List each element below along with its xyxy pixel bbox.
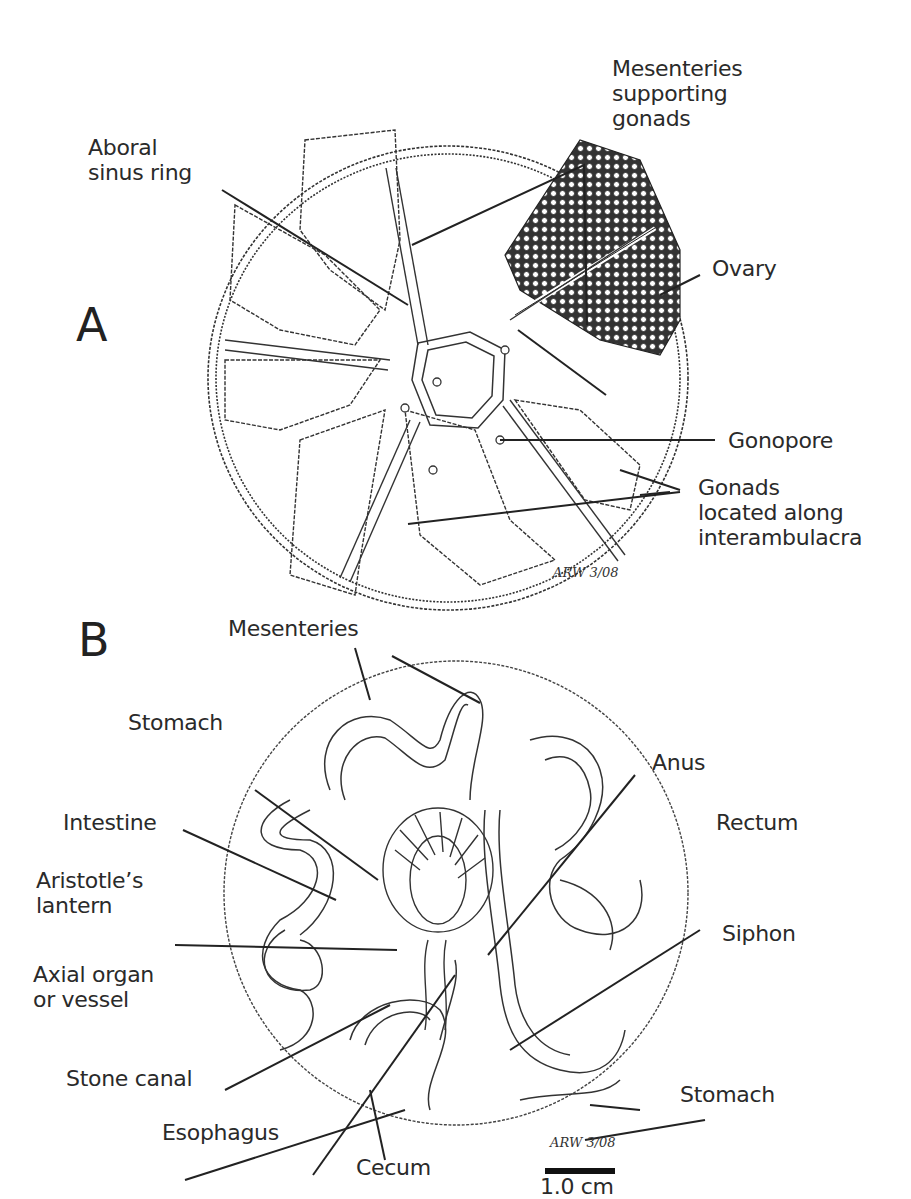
label-stomach-bottom: Stomach — [680, 1082, 775, 1107]
label-stomach-top: Stomach — [128, 710, 223, 735]
panel-a-letter: A — [76, 300, 107, 350]
label-aristotles-lantern: Aristotle’s lantern — [36, 868, 143, 918]
scale-bar-label: 1.0 cm — [540, 1174, 614, 1199]
label-siphon: Siphon — [722, 921, 796, 946]
label-gonads-interambulacra: Gonads located along interambulacra — [698, 475, 862, 550]
label-mesenteries-supporting-gonads: Mesenteries supporting gonads — [612, 56, 742, 131]
label-anus: Anus — [652, 750, 705, 775]
label-axial-organ: Axial organ or vessel — [33, 962, 154, 1012]
panel-b-letter: B — [78, 615, 110, 665]
signature-a: ARW 3/08 — [553, 565, 619, 580]
label-intestine: Intestine — [63, 810, 157, 835]
aristotles-lantern — [383, 808, 493, 1030]
label-mesenteries: Mesenteries — [228, 616, 358, 641]
ovary-region — [505, 140, 680, 355]
label-cecum: Cecum — [356, 1155, 431, 1180]
label-aboral-sinus-ring: Aboral sinus ring — [88, 135, 192, 185]
aboral-sinus-ring — [412, 332, 505, 428]
label-esophagus: Esophagus — [162, 1120, 279, 1145]
gut — [261, 692, 642, 1110]
signature-b: ARW 3/08 — [550, 1135, 616, 1150]
label-ovary: Ovary — [712, 256, 776, 281]
panel-b-leaders — [175, 648, 705, 1180]
label-gonopore: Gonopore — [728, 428, 833, 453]
label-stone-canal: Stone canal — [66, 1066, 192, 1091]
label-rectum: Rectum — [716, 810, 798, 835]
